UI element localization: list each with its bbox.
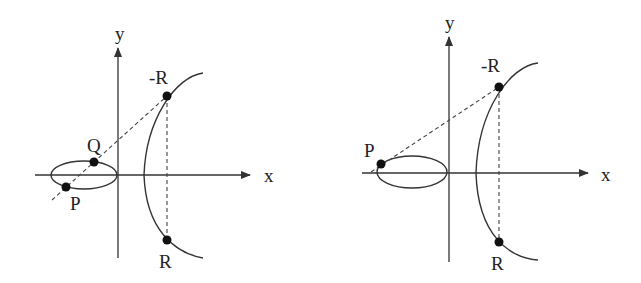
point-neg-R — [495, 83, 504, 92]
elliptic-curve-diagrams: x y P Q -R R x y P -R R — [0, 0, 641, 283]
curve-unbounded-component — [476, 63, 538, 260]
left-panel-point-addition: x y P Q -R R — [35, 23, 274, 272]
y-axis-label: y — [115, 23, 125, 44]
point-R — [163, 236, 172, 245]
label-P: P — [364, 140, 375, 161]
y-axis-label: y — [445, 12, 455, 33]
label-neg-R: -R — [481, 55, 500, 76]
curve-oval-component — [377, 156, 447, 188]
point-Q — [90, 158, 99, 167]
curve-unbounded-component — [144, 73, 203, 258]
label-neg-R: -R — [149, 67, 168, 88]
x-axis-label: x — [264, 165, 274, 186]
point-R — [495, 238, 504, 247]
label-R: R — [491, 253, 504, 274]
right-panel-point-doubling: x y P -R R — [362, 12, 611, 274]
x-axis-label: x — [601, 164, 611, 185]
label-R: R — [159, 251, 172, 272]
point-neg-R — [163, 92, 172, 101]
label-Q: Q — [87, 135, 101, 156]
point-P — [377, 160, 386, 169]
label-P: P — [70, 193, 81, 214]
point-P — [62, 183, 71, 192]
